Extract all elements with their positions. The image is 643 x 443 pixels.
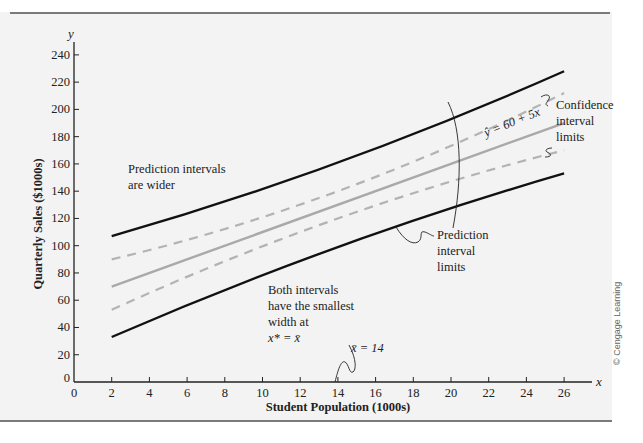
regression-line xyxy=(112,123,564,287)
x-axis-title: Student Population (1000s) xyxy=(266,400,410,414)
annotation-xbar: x̄ = 14 xyxy=(350,341,384,355)
x-tick-label: 2 xyxy=(109,386,115,400)
x-tick-label: 20 xyxy=(445,386,458,400)
y-tick-label: 220 xyxy=(51,75,70,89)
y-tick-label: 140 xyxy=(51,184,70,198)
x-axis-symbol: x xyxy=(595,374,602,389)
y-axis-symbol: y xyxy=(66,26,74,41)
confidence-upper-line xyxy=(112,93,564,259)
x-tick-label: 8 xyxy=(222,386,228,400)
y-tick-label: 200 xyxy=(51,102,70,116)
x-tick-label: 10 xyxy=(256,386,269,400)
y-tick-label: 60 xyxy=(58,293,71,307)
x-tick-label: 14 xyxy=(332,386,345,400)
y-tick-label: 120 xyxy=(51,211,70,225)
series-lines xyxy=(112,71,564,337)
prediction-upper-line xyxy=(112,71,564,236)
y-tick-label: 240 xyxy=(51,48,70,62)
x-tick-label: 26 xyxy=(558,386,571,400)
axis-ticks: 0246810121416182022242602040608010012014… xyxy=(51,48,570,400)
annotation-confidence-limits: Confidence interval limits xyxy=(556,98,617,144)
x-tick-label: 12 xyxy=(294,386,307,400)
x-tick-label: 24 xyxy=(520,386,533,400)
x-tick-label: 0 xyxy=(71,386,77,400)
annotation-prediction-limits: Prediction interval limits xyxy=(437,228,492,274)
y-tick-label: 40 xyxy=(58,320,71,334)
x-tick-label: 16 xyxy=(369,386,382,400)
annotation-both-intervals: Both intervals have the smallest width a… xyxy=(267,283,357,345)
prediction-leader-lower xyxy=(396,227,434,243)
annotation-prediction-wider: Prediction intervals are wider xyxy=(128,162,229,192)
x-tick-label: 18 xyxy=(407,386,420,400)
x-tick-label: 4 xyxy=(146,386,153,400)
y-axis-title: Quarterly Sales ($1000s) xyxy=(31,158,45,289)
x-tick-label: 22 xyxy=(482,386,495,400)
x-tick-label: 6 xyxy=(184,386,190,400)
y-tick-label: 0 xyxy=(64,371,70,385)
y-tick-label: 160 xyxy=(51,157,70,171)
y-tick-label: 180 xyxy=(51,130,70,144)
confidence-leader-upper xyxy=(541,95,549,106)
chart-svg: 0246810121416182022242602040608010012014… xyxy=(0,0,643,443)
y-tick-label: 20 xyxy=(58,348,71,362)
y-tick-label: 100 xyxy=(51,239,70,253)
y-tick-label: 80 xyxy=(58,266,71,280)
